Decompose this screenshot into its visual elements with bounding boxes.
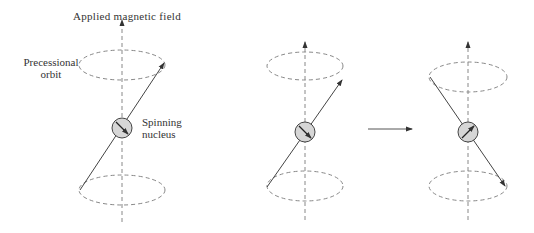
nucleus-label-line2: nucleus: [142, 128, 182, 140]
nucleus-label: Spinning nucleus: [142, 116, 182, 140]
nmr-precession-diagram: [0, 0, 534, 233]
orbit-label-line2: orbit: [22, 68, 80, 80]
nucleus-label-line1: Spinning: [142, 116, 182, 128]
field-label: Applied magnetic field: [73, 10, 181, 22]
orbit-label: Precessional orbit: [22, 56, 80, 80]
panel-middle: [267, 42, 343, 220]
orbit-label-line1: Precessional: [22, 56, 80, 68]
panel-right: [429, 42, 507, 220]
